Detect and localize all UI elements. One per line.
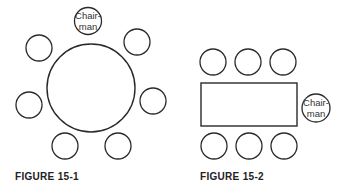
- seat-bottom-1: [201, 133, 227, 159]
- round-table: [47, 44, 135, 132]
- seat-top-2: [235, 49, 261, 75]
- figure-15-2-caption: FIGURE 15-2: [200, 171, 264, 182]
- seat-top-right: [124, 29, 150, 55]
- chairman-label-line2: man: [79, 21, 97, 32]
- figure-15-2-rectangular-table-layout: Chair- man: [200, 49, 330, 159]
- chairman-seat: Chair- man: [302, 94, 330, 122]
- seat-left: [16, 92, 42, 118]
- seat-top-1: [200, 49, 226, 75]
- seat-bottom-right: [105, 133, 131, 159]
- chairman-label-line1: Chair-: [303, 97, 329, 108]
- rectangular-table: [201, 83, 297, 126]
- chairman-label-line2: man: [307, 108, 325, 119]
- chairman-label-line1: Chair-: [75, 10, 101, 21]
- seat-top-3: [270, 49, 296, 75]
- figure-15-1-caption: FIGURE 15-1: [15, 171, 79, 182]
- seat-bottom-left: [52, 133, 78, 159]
- figure-15-1-round-table-layout: Chair- man: [16, 8, 166, 160]
- seat-right: [140, 88, 166, 114]
- seat-top-left: [26, 35, 52, 61]
- seat-bottom-3: [271, 133, 297, 159]
- seat-bottom-2: [236, 133, 262, 159]
- chairman-seat: Chair- man: [75, 8, 102, 35]
- seating-diagrams: Chair- man Chair- man: [0, 0, 347, 192]
